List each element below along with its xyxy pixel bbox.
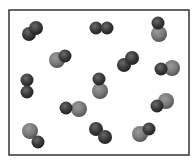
atom-dark [60, 102, 73, 115]
molecule-dark-light [155, 60, 181, 76]
molecules-group [21, 17, 181, 149]
atom-dark [125, 51, 139, 65]
atom-dark [29, 21, 43, 35]
atom-dark [151, 100, 164, 113]
molecule-dark-light [49, 50, 72, 69]
atom-dark [93, 73, 106, 86]
molecule-dark-dark [21, 74, 34, 99]
molecule-dark-dark [90, 22, 114, 35]
molecule-dark-light [92, 73, 108, 100]
atom-dark [101, 22, 114, 35]
atom-dark [152, 17, 165, 30]
molecule-dark-dark [117, 51, 139, 72]
molecule-dark-dark [89, 122, 112, 144]
atom-dark [59, 50, 72, 63]
molecule-dark-light [22, 123, 45, 149]
molecule-dark-light [151, 17, 167, 43]
atom-dark [98, 130, 112, 144]
molecule-dark-dark [22, 21, 43, 41]
atom-dark [143, 123, 156, 136]
atom-dark [21, 74, 34, 87]
atom-dark [32, 136, 45, 149]
molecule-dark-light [132, 123, 156, 143]
molecule-dark-light [151, 93, 175, 113]
atom-dark [155, 63, 168, 76]
atom-light [71, 101, 87, 117]
molecule-diagram [0, 0, 193, 160]
atom-dark [21, 86, 34, 99]
molecule-dark-light [60, 101, 88, 117]
